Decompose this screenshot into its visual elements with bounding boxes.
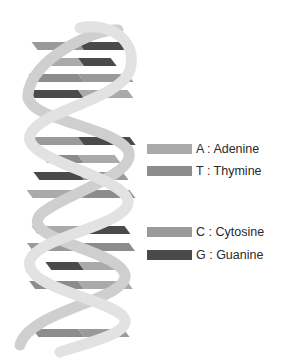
- base-pair-10-left: [45, 262, 84, 270]
- guanine-swatch: [147, 250, 192, 260]
- base-pair-3-left: [29, 90, 84, 98]
- dna-helix: [0, 0, 284, 364]
- legend-label: G : Guanine: [196, 248, 263, 262]
- thymine-swatch: [147, 166, 192, 176]
- legend-label: A : Adenine: [196, 142, 259, 156]
- legend-item-guanine: G : Guanine: [147, 248, 263, 262]
- legend-item-thymine: T : Thymine: [147, 164, 262, 178]
- legend-item-cytosine: C : Cytosine: [147, 225, 264, 239]
- cytosine-swatch: [147, 227, 192, 237]
- legend-label: C : Cytosine: [196, 225, 264, 239]
- base-pair-1-right: [78, 58, 117, 66]
- legend-label: T : Thymine: [196, 164, 262, 178]
- adenine-swatch: [147, 144, 192, 154]
- legend-item-adenine: A : Adenine: [147, 142, 259, 156]
- base-pair-5-right: [78, 155, 121, 163]
- base-pair-12-left: [32, 329, 84, 337]
